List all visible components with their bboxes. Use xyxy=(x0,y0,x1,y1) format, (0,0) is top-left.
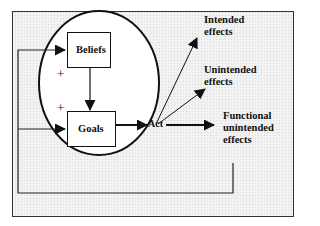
unintended-line2: effects xyxy=(204,76,257,88)
intended-effects-label: Intended effects xyxy=(204,14,244,38)
goals-label: Goals xyxy=(78,123,104,135)
functional-line1: Functional xyxy=(223,110,274,122)
beliefs-plus-sign: + xyxy=(57,68,64,80)
intended-line2: effects xyxy=(204,26,244,38)
intended-line1: Intended xyxy=(204,14,244,26)
functional-line2: unintended xyxy=(223,122,274,134)
functional-line3: effects xyxy=(223,134,274,146)
unintended-effects-label: Unintended effects xyxy=(204,64,257,88)
beliefs-label: Beliefs xyxy=(76,44,106,56)
goals-plus-sign: + xyxy=(57,102,64,114)
functional-unintended-effects-label: Functional unintended effects xyxy=(223,110,274,146)
act-label: Act xyxy=(148,118,163,130)
unintended-line1: Unintended xyxy=(204,64,257,76)
